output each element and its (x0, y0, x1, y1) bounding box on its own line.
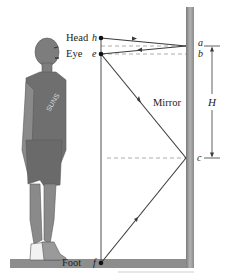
label-H: H (207, 96, 217, 108)
label-mirror: Mirror (153, 97, 181, 108)
label-b: b (198, 48, 203, 59)
label-e: e (92, 48, 97, 59)
person-figure (22, 38, 66, 260)
ray-arrowheads (132, 37, 142, 223)
label-head: Head (66, 32, 89, 43)
point-e (99, 52, 104, 57)
label-c: c (197, 152, 202, 163)
point-f (99, 261, 104, 266)
label-a: a (198, 37, 203, 48)
label-h: h (92, 32, 97, 43)
point-h (99, 36, 104, 41)
label-foot: Foot (62, 257, 81, 268)
label-eye: Eye (66, 48, 83, 59)
light-rays (101, 38, 186, 263)
mirror (186, 7, 194, 268)
mirror-diagram: SUNS Head h Eye e Foot (0, 0, 234, 278)
